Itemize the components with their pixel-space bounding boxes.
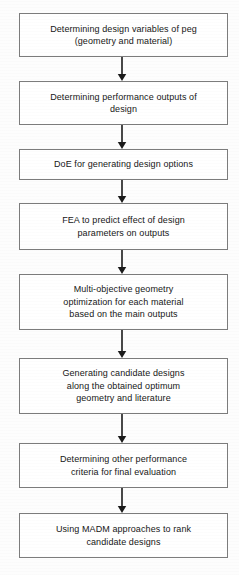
flowchart-node-label: Determining performance outputs of desig… — [44, 91, 203, 116]
flowchart-node-other-criteria: Determining other performance criteria f… — [19, 443, 228, 488]
arrow-head-icon — [118, 436, 127, 443]
flowchart-node-label: Determining design variables of peg (geo… — [44, 23, 203, 48]
arrow-head-icon — [118, 351, 127, 358]
flowchart-node-label: DoE for generating design options — [48, 158, 199, 170]
arrow-head-icon — [118, 74, 127, 81]
flowchart-node-candidate-designs: Generating candidate designs along the o… — [19, 358, 228, 414]
flowchart-node-fea-prediction: FEA to predict effect of design paramete… — [19, 203, 228, 250]
flowchart-diagram: Determining design variables of peg (geo… — [0, 0, 239, 575]
flowchart-node-madm-ranking: Using MADM approaches to rank candidate … — [19, 513, 228, 558]
arrow-head-icon — [118, 142, 127, 149]
flowchart-node-label: Using MADM approaches to rank candidate … — [50, 523, 197, 548]
flowchart-node-performance-outputs: Determining performance outputs of desig… — [19, 81, 228, 125]
flowchart-node-doe-design-options: DoE for generating design options — [19, 149, 228, 180]
flowchart-node-label: FEA to predict effect of design paramete… — [56, 214, 191, 239]
arrow-head-icon — [118, 196, 127, 203]
arrow-head-icon — [118, 267, 127, 274]
flowchart-node-label: Determining other performance criteria f… — [54, 453, 193, 478]
flowchart-node-label: Generating candidate designs along the o… — [56, 367, 190, 404]
flowchart-node-label: Multi-objective geometry optimization fo… — [57, 283, 189, 320]
arrow-head-icon — [118, 506, 127, 513]
flowchart-node-design-variables: Determining design variables of peg (geo… — [19, 13, 228, 57]
flowchart-node-multiobjective-optimization: Multi-objective geometry optimization fo… — [19, 274, 228, 330]
